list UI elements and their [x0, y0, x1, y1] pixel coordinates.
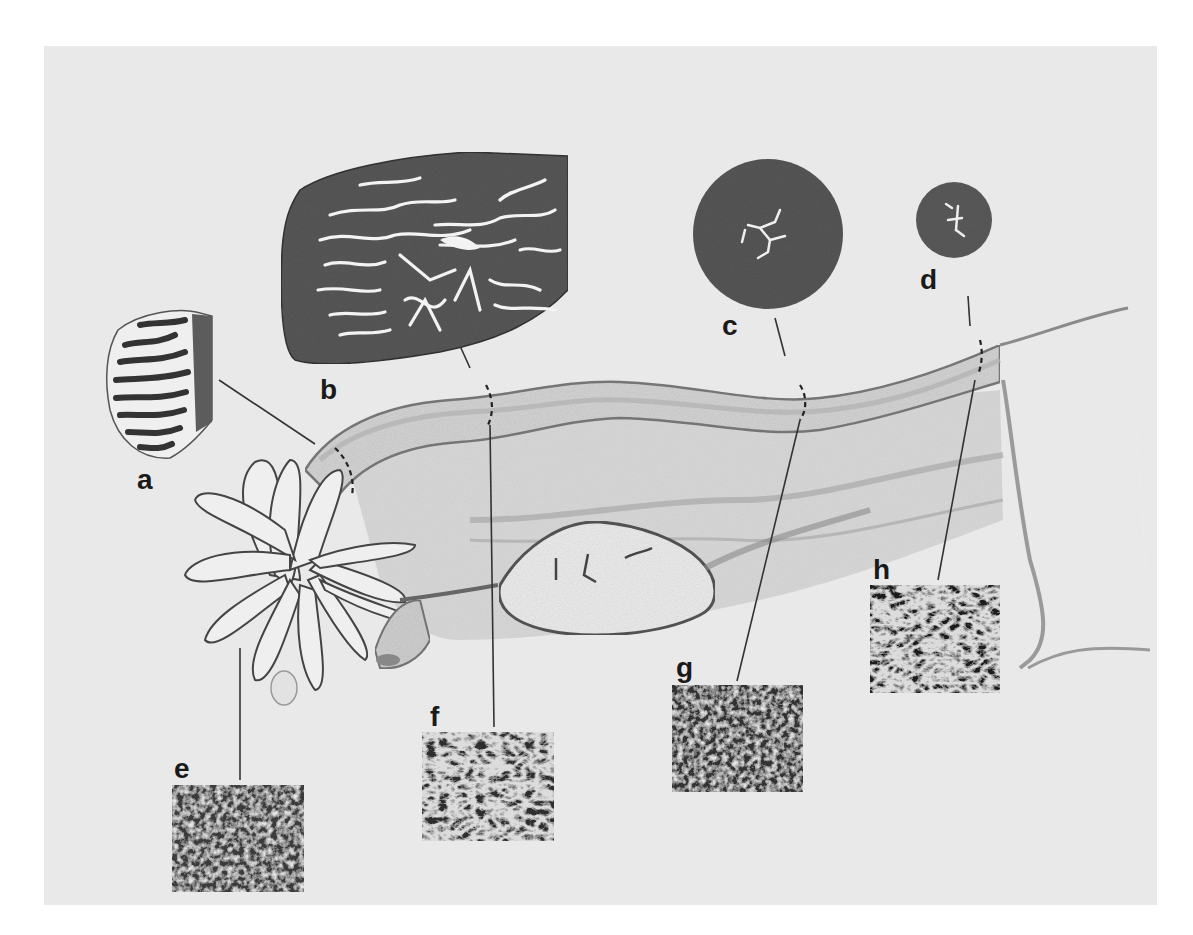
sem-inset-h — [870, 585, 1000, 693]
label-b: b — [320, 376, 337, 404]
ligament-stub-lumen — [376, 654, 400, 666]
label-c: c — [722, 312, 738, 340]
uterus-outline — [1000, 308, 1150, 668]
label-e: e — [174, 755, 190, 783]
cross-section-b — [281, 152, 568, 364]
sem-inset-f — [422, 732, 554, 841]
oviduct-illustration — [0, 0, 1193, 935]
cross-section-c — [693, 159, 843, 309]
cross-section-d — [916, 182, 992, 258]
label-f: f — [430, 703, 439, 731]
cross-section-a — [107, 311, 212, 459]
ovum-drop — [271, 671, 297, 705]
label-d: d — [920, 266, 937, 294]
label-h: h — [873, 556, 890, 584]
sem-inset-e — [172, 785, 304, 892]
label-a: a — [137, 466, 153, 494]
label-g: g — [676, 654, 693, 682]
sem-inset-g — [672, 685, 803, 792]
